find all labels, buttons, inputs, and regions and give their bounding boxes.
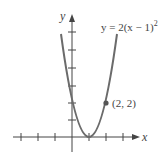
y-axis-label: y [59,9,66,23]
x-axis [13,133,140,141]
x-axis-arrow-icon [132,134,140,140]
graph-figure: y x y = 2(x − 1)2 (2, 2) [0,0,163,164]
point-label: (2, 2) [112,97,136,110]
parabola-curve [61,34,117,137]
equation-label: y = 2(x − 1)2 [101,19,158,34]
point-marker [103,100,108,105]
x-axis-label: x [141,130,148,144]
y-axis-arrow-icon [69,14,75,22]
